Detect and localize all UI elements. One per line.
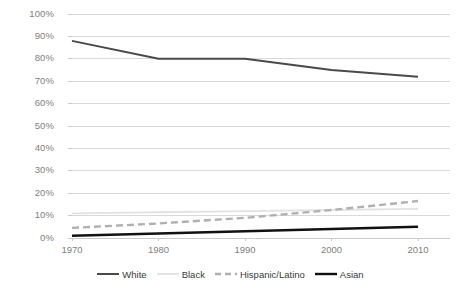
legend-swatch-icon [315,269,337,279]
legend-label: White [122,269,146,280]
legend-swatch-icon [215,269,237,279]
x-axis-tick-label: 2010 [407,244,428,255]
legend-item-asian[interactable]: Asian [315,269,364,280]
legend-swatch-icon [157,269,179,279]
x-axis-tick-label: 1970 [61,244,82,255]
legend-item-hispanic-latino[interactable]: Hispanic/Latino [215,269,305,280]
x-axis-tick-labels: 19701980199020002010 [0,0,461,294]
legend-label: Hispanic/Latino [240,269,305,280]
legend-item-white[interactable]: White [97,269,146,280]
legend-swatch-icon [97,269,119,279]
x-axis-tick-label: 2000 [321,244,342,255]
x-axis-tick-label: 1980 [148,244,169,255]
legend-item-black[interactable]: Black [157,269,205,280]
line-chart: 100%90%80%70%60%50%40%30%20%10%0% 197019… [0,0,461,294]
x-axis-tick-label: 1990 [234,244,255,255]
chart-legend: WhiteBlackHispanic/LatinoAsian [0,266,461,282]
legend-label: Black [182,269,205,280]
legend-label: Asian [340,269,364,280]
